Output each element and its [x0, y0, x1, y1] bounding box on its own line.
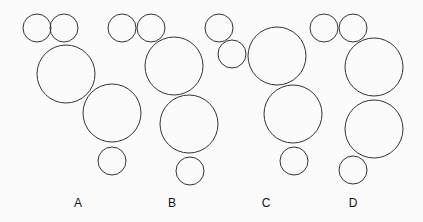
circle-icon [345, 100, 403, 158]
circle-icon [310, 14, 338, 42]
option-d: D [310, 14, 403, 210]
circle-icon [108, 14, 136, 42]
circle-icon [137, 14, 165, 42]
circle-icon [264, 85, 322, 143]
option-label: B [168, 196, 176, 210]
option-a: A [23, 14, 141, 210]
circle-icon [83, 84, 141, 142]
circle-icon [176, 157, 204, 185]
circle-icon [160, 95, 218, 153]
circle-icon [98, 147, 126, 175]
circle-icon [339, 156, 367, 184]
circle-icon [50, 14, 78, 42]
circle-icon [345, 38, 403, 96]
option-label: A [74, 196, 82, 210]
circle-icon [339, 14, 367, 42]
circle-icon [23, 14, 51, 42]
option-b: B [108, 14, 218, 210]
circle-icon [37, 45, 95, 103]
option-c: C [205, 14, 322, 210]
circle-icon [145, 37, 203, 95]
option-label: D [349, 196, 358, 210]
circle-icon [218, 40, 246, 68]
circle-icon [280, 147, 308, 175]
circle-icon [205, 14, 233, 42]
figure-svg: ABCD [0, 0, 423, 222]
option-label: C [262, 196, 271, 210]
circle-arrangements-figure: ABCD [0, 0, 423, 222]
circle-icon [248, 27, 306, 85]
